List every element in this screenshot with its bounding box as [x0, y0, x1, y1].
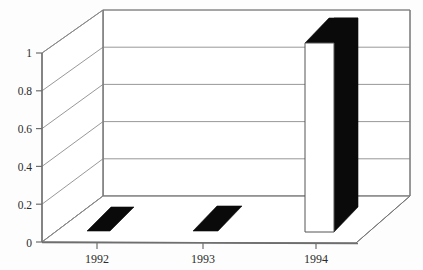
y-tick-label-1: 1	[26, 47, 32, 59]
bar-1994-side-face[interactable]	[334, 18, 358, 232]
y-tick-label-0_2: 0.2	[18, 199, 33, 211]
y-axis-ticks	[36, 53, 42, 242]
bar-1994-front-face[interactable]	[305, 43, 334, 232]
y-axis: 1 0.8 0.6 0.4 0.2 0	[18, 47, 42, 249]
x-tick-label-1992: 1992	[85, 252, 109, 266]
bar-chart-3d: 1 0.8 0.6 0.4 0.2 0	[0, 0, 423, 270]
x-tick-label-1994: 1994	[304, 252, 328, 266]
x-axis: 1992 1993 1994	[42, 243, 358, 267]
back-wall	[103, 10, 410, 196]
bar-1994[interactable]	[305, 18, 358, 232]
y-tick-label-0_8: 0.8	[18, 85, 33, 97]
y-tick-label-0: 0	[26, 237, 32, 249]
x-tick-label-1993: 1993	[191, 252, 215, 266]
chart-canvas: 1 0.8 0.6 0.4 0.2 0	[0, 0, 423, 270]
y-tick-label-0_4: 0.4	[18, 161, 33, 173]
y-tick-label-0_6: 0.6	[18, 123, 33, 135]
